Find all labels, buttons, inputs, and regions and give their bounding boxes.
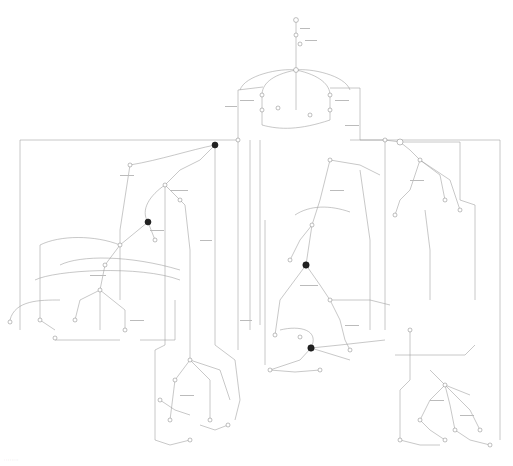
state-node[interactable] — [173, 378, 177, 382]
state-node[interactable] — [53, 336, 57, 340]
state-node[interactable] — [348, 348, 352, 352]
state-node[interactable] — [443, 198, 447, 202]
state-node[interactable] — [158, 398, 162, 402]
state-node[interactable] — [188, 358, 192, 362]
state-node[interactable] — [98, 288, 102, 292]
state-node[interactable] — [268, 368, 272, 372]
state-node[interactable] — [294, 33, 298, 37]
state-node[interactable] — [38, 318, 42, 322]
state-node[interactable] — [273, 333, 277, 337]
state-node[interactable] — [298, 42, 302, 46]
state-node[interactable] — [236, 138, 240, 142]
state-node[interactable] — [123, 328, 127, 332]
highlighted-node[interactable] — [303, 262, 309, 268]
highlighted-node[interactable] — [145, 219, 151, 225]
state-node[interactable] — [318, 368, 322, 372]
diagram-canvas — [0, 0, 513, 466]
state-node[interactable] — [488, 443, 492, 447]
footer-text: · · · · · · · · — [4, 458, 18, 462]
state-node[interactable] — [178, 198, 182, 202]
state-node[interactable] — [397, 139, 403, 145]
state-node[interactable] — [328, 158, 332, 162]
state-node[interactable] — [478, 428, 482, 432]
flow-graph — [0, 0, 513, 466]
state-node[interactable] — [328, 298, 332, 302]
state-node[interactable] — [443, 383, 447, 387]
state-node[interactable] — [168, 418, 172, 422]
start-node[interactable] — [294, 18, 299, 23]
state-node[interactable] — [308, 113, 312, 117]
state-node[interactable] — [103, 263, 107, 267]
state-node[interactable] — [8, 320, 12, 324]
state-node[interactable] — [328, 93, 332, 97]
state-node[interactable] — [153, 238, 157, 242]
state-node[interactable] — [294, 68, 299, 73]
state-node[interactable] — [458, 208, 462, 212]
state-node[interactable] — [163, 183, 167, 187]
state-node[interactable] — [398, 438, 402, 442]
state-node[interactable] — [418, 158, 422, 162]
state-node[interactable] — [408, 328, 412, 332]
highlighted-node[interactable] — [308, 345, 314, 351]
state-node[interactable] — [188, 438, 192, 442]
state-node[interactable] — [298, 335, 302, 339]
state-node[interactable] — [393, 213, 397, 217]
state-node[interactable] — [276, 106, 280, 110]
state-node[interactable] — [328, 108, 332, 112]
state-node[interactable] — [226, 423, 230, 427]
state-node[interactable] — [73, 318, 77, 322]
state-node[interactable] — [383, 138, 387, 142]
state-node[interactable] — [128, 163, 132, 167]
state-node[interactable] — [208, 418, 212, 422]
state-node[interactable] — [443, 438, 447, 442]
edges — [10, 20, 500, 445]
state-node[interactable] — [260, 108, 264, 112]
state-node[interactable] — [288, 258, 292, 262]
state-node[interactable] — [453, 428, 457, 432]
state-node[interactable] — [418, 418, 422, 422]
state-node[interactable] — [310, 223, 314, 227]
state-node[interactable] — [260, 93, 264, 97]
state-node[interactable] — [118, 243, 122, 247]
highlighted-node[interactable] — [212, 142, 218, 148]
